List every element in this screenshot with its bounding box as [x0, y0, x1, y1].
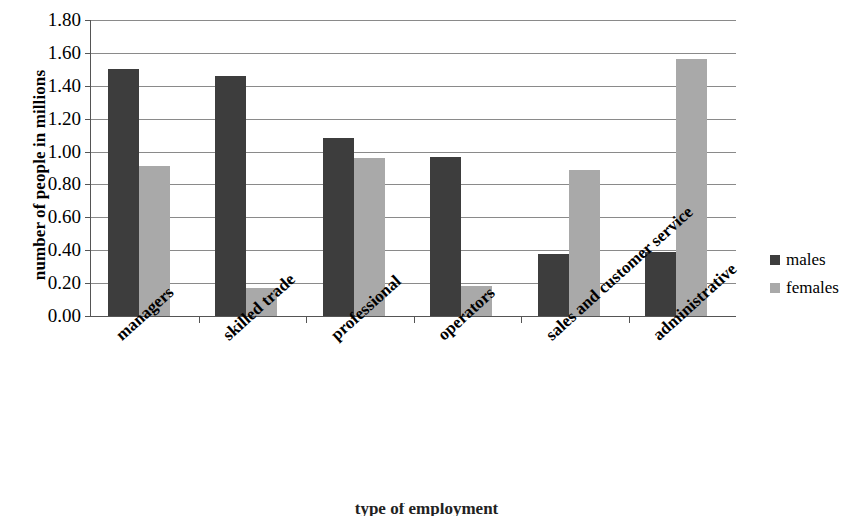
x-axis-tick [414, 316, 415, 323]
y-axis-tick [85, 119, 91, 120]
x-axis-title: type of employment [0, 503, 853, 516]
legend-swatch-males [770, 255, 780, 265]
bar-males-managers [108, 69, 139, 316]
bar-males-professional [323, 138, 354, 316]
y-axis-tick [85, 20, 91, 21]
gridline [91, 53, 736, 54]
legend-label: females [786, 278, 839, 298]
y-axis-tick-label: 0.40 [11, 239, 81, 261]
y-axis-tick-label: 1.40 [11, 75, 81, 97]
legend-swatch-females [770, 283, 780, 293]
gridline [91, 20, 736, 21]
y-axis-tick [85, 316, 91, 317]
legend-item-females[interactable]: females [770, 278, 839, 298]
y-axis-tick-label: 0.00 [11, 305, 81, 327]
y-axis-tick-label: 0.80 [11, 173, 81, 195]
y-axis-tick-label: 1.80 [11, 9, 81, 31]
bar-males-operators [430, 157, 461, 317]
bar-females-administrative [676, 59, 707, 316]
y-axis-tick-label: 1.00 [11, 141, 81, 163]
y-axis-tick [85, 86, 91, 87]
legend-item-males[interactable]: males [770, 250, 839, 270]
gridline [91, 217, 736, 218]
x-axis-title-clip: type of employment [0, 503, 853, 516]
y-axis-tick-label: 0.20 [11, 272, 81, 294]
bar-males-administrative [645, 252, 676, 316]
y-axis-tick [85, 152, 91, 153]
y-axis-tick-label: 1.20 [11, 108, 81, 130]
x-axis-tick [521, 316, 522, 323]
y-axis-tick [85, 53, 91, 54]
gridline [91, 283, 736, 284]
bar-males-sales-and-customer-service [538, 254, 569, 316]
gridline [91, 86, 736, 87]
x-axis-tick [199, 316, 200, 323]
bar-males-skilled-trade [215, 76, 246, 316]
x-axis-tick [629, 316, 630, 323]
y-axis-tick [85, 184, 91, 185]
gridline [91, 184, 736, 185]
y-axis-tick [85, 250, 91, 251]
x-axis-tick [306, 316, 307, 323]
gridline [91, 152, 736, 153]
y-axis-tick-label: 1.60 [11, 42, 81, 64]
y-axis-tick [85, 283, 91, 284]
plot-area: 0.000.200.400.600.801.001.201.401.601.80 [90, 20, 736, 317]
bar-chart: number of people in millions 0.000.200.4… [0, 0, 853, 516]
legend-label: males [786, 250, 826, 270]
gridline [91, 119, 736, 120]
chart-legend: malesfemales [770, 250, 839, 306]
y-axis-tick-label: 0.60 [11, 206, 81, 228]
y-axis-tick [85, 217, 91, 218]
